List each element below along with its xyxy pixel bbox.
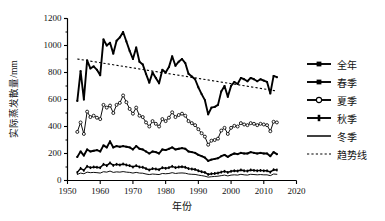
y-tick-label: 1000: [28, 40, 62, 50]
legend-item-label: 秋季: [337, 111, 357, 126]
y-axis-title: 实际蒸发散量/mm: [6, 39, 20, 159]
x-tick-label: 1970: [116, 186, 150, 196]
legend-marker-icon: [306, 93, 332, 107]
legend-marker-icon: [306, 129, 332, 143]
legend-marker-icon: [306, 147, 332, 161]
x-tick-label: 1960: [83, 186, 117, 196]
y-tick-label: 200: [28, 148, 62, 158]
legend-item-filled-plus[interactable]: 秋季: [306, 109, 382, 127]
y-tick-label: 800: [28, 67, 62, 77]
x-tick-label: 2020: [280, 186, 314, 196]
x-axis-title: 年份: [67, 198, 297, 213]
axes-group: [64, 19, 297, 185]
y-tick-label: 0: [28, 175, 62, 185]
data-series-group: [76, 31, 279, 177]
x-tick-label: 1980: [149, 186, 183, 196]
legend-item-label: 全年: [337, 57, 357, 72]
y-tick-label: 1200: [28, 13, 62, 23]
legend-marker-icon: [306, 57, 332, 71]
x-tick-label: 1990: [181, 186, 215, 196]
chart-legend: 全年春季夏季秋季冬季趋势线: [306, 55, 382, 163]
legend-item-dotted-line[interactable]: 趋势线: [306, 145, 382, 163]
x-tick-label: 2000: [214, 186, 248, 196]
legend-marker-icon: [306, 75, 332, 89]
legend-item-label: 春季: [337, 75, 357, 90]
y-tick-label: 400: [28, 121, 62, 131]
chart-figure: 1200100080060040020001950196019701980199…: [0, 0, 385, 221]
legend-marker-icon: [306, 111, 332, 125]
legend-item-label: 冬季: [337, 129, 357, 144]
legend-item-open-circle[interactable]: 夏季: [306, 91, 382, 109]
y-tick-label: 600: [28, 94, 62, 104]
legend-item-filled-square[interactable]: 全年: [306, 55, 382, 73]
legend-item-filled-square[interactable]: 春季: [306, 73, 382, 91]
x-tick-label: 1950: [51, 186, 85, 196]
legend-item-plain-line[interactable]: 冬季: [306, 127, 382, 145]
legend-item-label: 夏季: [337, 93, 357, 108]
legend-item-label: 趋势线: [337, 147, 367, 162]
x-tick-label: 2010: [247, 186, 281, 196]
